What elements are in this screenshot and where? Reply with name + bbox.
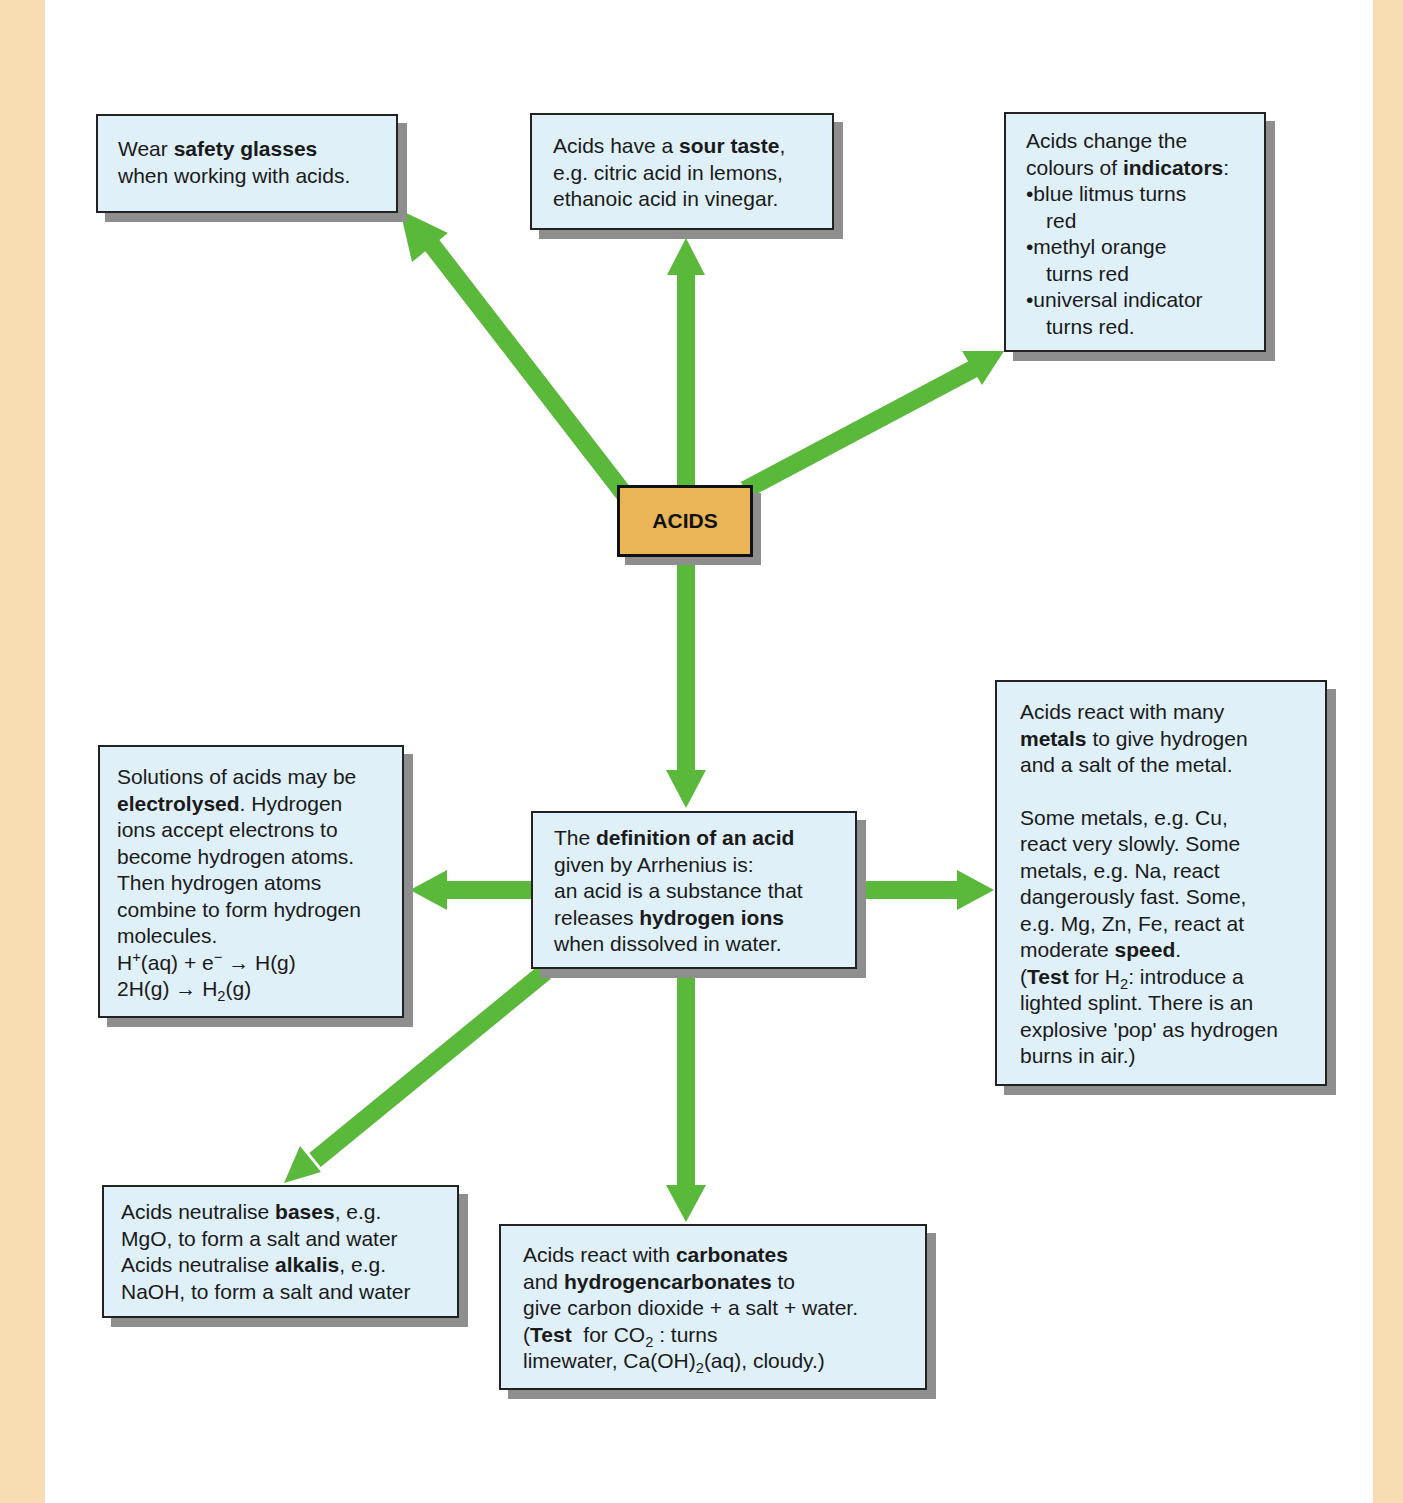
node-sour-taste: Acids have a sour taste, e.g. citric aci… xyxy=(530,113,834,230)
text-line: given by Arrhenius is: xyxy=(554,852,837,879)
text-line: burns in air.) xyxy=(1020,1043,1307,1070)
paragraph-gap xyxy=(1020,779,1307,805)
text-line: ethanoic acid in vinegar. xyxy=(553,186,814,213)
text-line: give carbon dioxide + a salt + water. xyxy=(523,1295,907,1322)
arrow-to-electrolysis xyxy=(410,870,532,910)
text-line: when working with acids. xyxy=(118,163,378,190)
text-line: lighted splint. There is an xyxy=(1020,990,1307,1017)
text-line: e.g. citric acid in lemons, xyxy=(553,160,814,187)
bullet-item-methyl-orange: •methyl orange xyxy=(1026,234,1246,261)
text-line: Acids neutralise alkalis, e.g. xyxy=(121,1252,439,1279)
node-metals: Acids react with many metals to give hyd… xyxy=(995,680,1327,1086)
text-line: metals, e.g. Na, react xyxy=(1020,858,1307,885)
text-line: Then hydrogen atoms xyxy=(117,870,384,897)
text-line: e.g. Mg, Zn, Fe, react at xyxy=(1020,911,1307,938)
arrow-acids-to-definition xyxy=(666,558,706,808)
text-line: moderate speed. xyxy=(1020,937,1307,964)
arrow-to-carbonates xyxy=(666,968,706,1222)
text-line: Wear safety glasses xyxy=(118,136,378,163)
text-line: ions accept electrons to xyxy=(117,817,384,844)
bullet-continuation: red xyxy=(1026,208,1246,235)
text-line: metals to give hydrogen xyxy=(1020,726,1307,753)
text-line: colours of indicators: xyxy=(1026,155,1246,182)
text-line: (Test for H2: introduce a xyxy=(1020,964,1307,991)
text-line: explosive 'pop' as hydrogen xyxy=(1020,1017,1307,1044)
node-definition: The definition of an acid given by Arrhe… xyxy=(531,811,857,969)
equation-2: 2H(g) → H2(g) xyxy=(117,976,384,1003)
text-line: Solutions of acids may be xyxy=(117,764,384,791)
arrow-to-indicators xyxy=(745,351,1004,490)
text-line: Acids change the xyxy=(1026,128,1246,155)
text-line: combine to form hydrogen xyxy=(117,897,384,924)
text-line: releases hydrogen ions xyxy=(554,905,837,932)
text-line: and a salt of the metal. xyxy=(1020,752,1307,779)
text-line: Acids have a sour taste, xyxy=(553,133,814,160)
text-line: an acid is a substance that xyxy=(554,878,837,905)
center-label: ACIDS xyxy=(652,509,717,533)
bullet-item-universal: •universal indicator xyxy=(1026,287,1246,314)
text-line: (Test for CO2 : turns xyxy=(523,1322,907,1349)
text-line: Some metals, e.g. Cu, xyxy=(1020,805,1307,832)
text-line: electrolysed. Hydrogen xyxy=(117,791,384,818)
text-line: The definition of an acid xyxy=(554,825,837,852)
text-line: limewater, Ca(OH)2(aq), cloudy.) xyxy=(523,1348,907,1375)
node-bases: Acids neutralise bases, e.g. MgO, to for… xyxy=(102,1185,459,1318)
text-line: when dissolved in water. xyxy=(554,931,837,958)
arrow-to-safety xyxy=(400,210,625,495)
text-line: Acids react with many xyxy=(1020,699,1307,726)
bullet-continuation: turns red. xyxy=(1026,314,1246,341)
bullet-item-litmus: •blue litmus turns xyxy=(1026,181,1246,208)
text-line: become hydrogen atoms. xyxy=(117,844,384,871)
node-carbonates: Acids react with carbonates and hydrogen… xyxy=(499,1224,927,1390)
center-node-acids: ACIDS xyxy=(617,485,753,557)
text-line: Acids react with carbonates xyxy=(523,1242,907,1269)
node-indicators: Acids change the colours of indicators: … xyxy=(1004,112,1266,352)
text-line: dangerously fast. Some, xyxy=(1020,884,1307,911)
text-line: MgO, to form a salt and water xyxy=(121,1226,439,1253)
node-electrolysis: Solutions of acids may be electrolysed. … xyxy=(98,745,404,1018)
text-line: Acids neutralise bases, e.g. xyxy=(121,1199,439,1226)
text-line: NaOH, to form a salt and water xyxy=(121,1279,439,1306)
equation-1: H+(aq) + e− → H(g) xyxy=(117,950,384,977)
arrow-to-metals xyxy=(858,870,994,910)
text-line: react very slowly. Some xyxy=(1020,831,1307,858)
bullet-continuation: turns red xyxy=(1026,261,1246,288)
arrow-to-taste xyxy=(667,238,705,487)
node-safety-glasses: Wear safety glasses when working with ac… xyxy=(96,114,398,213)
text-line: and hydrogencarbonates to xyxy=(523,1269,907,1296)
text-line: molecules. xyxy=(117,923,384,950)
